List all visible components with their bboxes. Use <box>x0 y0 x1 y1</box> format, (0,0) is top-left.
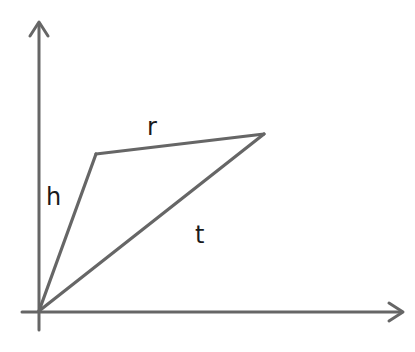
label-t: t <box>195 223 204 247</box>
label-h: h <box>46 185 61 209</box>
vector-diagram <box>0 0 415 352</box>
vector-edges <box>39 134 264 311</box>
edge-r <box>96 134 264 154</box>
label-r: r <box>147 115 157 139</box>
